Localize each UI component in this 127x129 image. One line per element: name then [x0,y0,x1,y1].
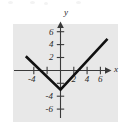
x-tick-label-6: 6 [98,75,103,84]
y-tick-label-4: 4 [49,40,54,49]
graph-figure: y x -4 2 4 6 6 4 2 -4 -6 [0,0,127,129]
x-axis-label: x [114,65,118,74]
y-axis-arrow-icon [57,22,64,29]
absolute-value-curve [26,39,108,90]
y-tick-label-6: 6 [49,28,54,37]
y-tick-label-2: 2 [49,53,54,62]
x-tick-label-2: 2 [72,75,77,84]
x-tick-label-4: 4 [85,75,90,84]
y-tick-label-neg6: -6 [46,105,54,114]
x-tick-label-neg4: -4 [28,75,36,84]
x-axis-arrow-icon [105,67,112,74]
y-tick-label-neg4: -4 [46,92,54,101]
graph-canvas [0,0,127,129]
y-axis-label: y [64,8,68,17]
